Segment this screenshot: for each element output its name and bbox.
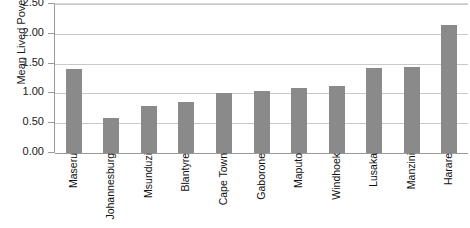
- x-axis-label-slot: Maseru: [65, 153, 81, 227]
- bar: [404, 67, 420, 153]
- plot-inner: [55, 4, 468, 153]
- y-axis-tick-label: 2.00: [0, 26, 44, 38]
- bar: [329, 86, 345, 153]
- x-axis-tick-label: Gaborone: [255, 153, 267, 200]
- x-axis-label-slot: Msunduzi: [140, 153, 156, 227]
- x-axis-tick-label: Maseru: [67, 153, 79, 188]
- x-axis-tick-label: Harare: [442, 153, 454, 185]
- y-axis-tick-labels: 0.000.501.001.502.002.50: [0, 0, 54, 155]
- plot-area: [54, 3, 468, 153]
- bar: [441, 25, 457, 153]
- y-axis-tick-label: 0.50: [0, 115, 44, 127]
- bar: [178, 102, 194, 153]
- x-axis-label-slot: Windhoek: [328, 153, 344, 227]
- bar: [141, 106, 157, 153]
- bar: [103, 118, 119, 153]
- x-axis-tick-label: Windhoek: [330, 153, 342, 200]
- bar: [291, 88, 307, 153]
- x-axis-label-slot: Blantyre: [177, 153, 193, 227]
- gridline: [55, 34, 468, 35]
- x-axis-label-slot: Cape Town: [215, 153, 231, 227]
- x-axis-tick-label: Cape Town: [217, 153, 229, 205]
- y-axis-tick-label: 1.50: [0, 56, 44, 68]
- x-axis-tick-label: Lusaka: [367, 153, 379, 187]
- x-axis-label-slot: Manzini: [403, 153, 419, 227]
- bar: [254, 91, 270, 153]
- y-axis-tick-label: 2.50: [0, 0, 44, 8]
- bar: [216, 93, 232, 153]
- x-axis-label-slot: Johannesburg: [102, 153, 118, 227]
- x-axis-category-labels: MaseruJohannesburgMsunduziBlantyreCape T…: [54, 153, 467, 228]
- gridline: [55, 64, 468, 65]
- x-axis-tick-label: Maputo: [292, 153, 304, 188]
- y-axis-tick-label: 0.00: [0, 145, 44, 157]
- y-axis-tick-label: 1.00: [0, 85, 44, 97]
- x-axis-tick-label: Manzini: [405, 153, 417, 189]
- bar: [66, 69, 82, 153]
- x-axis-label-slot: Harare: [440, 153, 456, 227]
- x-axis-tick-label: Blantyre: [179, 153, 191, 192]
- x-axis-label-slot: Maputo: [290, 153, 306, 227]
- x-axis-tick-label: Msunduzi: [142, 153, 154, 198]
- gridline: [55, 4, 468, 5]
- x-axis-tick-label: Johannesburg: [104, 153, 116, 220]
- x-axis-label-slot: Lusaka: [365, 153, 381, 227]
- x-axis-label-slot: Gaborone: [253, 153, 269, 227]
- bar: [366, 68, 382, 153]
- bar-chart: Mean Lived Poverty Index 0.000.501.001.5…: [0, 0, 470, 228]
